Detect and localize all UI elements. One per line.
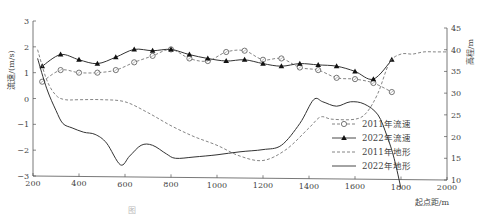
- y-left-tick-label: 0: [24, 95, 29, 104]
- legend-label: 2022年流速: [362, 133, 411, 143]
- legend-item-velocity-2011: 2011年流速: [332, 119, 411, 129]
- y-right-tick-label: 30: [451, 89, 461, 98]
- axes: 200400600800100012001400160018002000−3−2…: [6, 17, 475, 207]
- y-right-tick-label: 35: [451, 67, 461, 76]
- x-tick-label: 1000: [207, 181, 227, 190]
- y-left-tick-label: −1: [17, 120, 29, 129]
- x-tick-label: 400: [71, 179, 86, 188]
- x-tick-label: 1600: [345, 182, 365, 191]
- x-axis-line: [33, 176, 447, 180]
- y-right-tick-label: 15: [451, 154, 461, 163]
- legend-triangle-marker: [341, 135, 347, 140]
- x-tick-label: 800: [163, 180, 178, 189]
- y-right-tick-label: 40: [451, 46, 461, 55]
- y-left-tick-label: 3: [24, 17, 29, 26]
- chart: 200400600800100012001400160018002000−3−2…: [0, 0, 486, 218]
- y-left-tick-label: 1: [24, 69, 29, 78]
- y-left-tick-label: −2: [17, 146, 29, 155]
- legend-item-velocity-2022: 2022年流速: [332, 133, 411, 143]
- legend-item-terrain-2011: 2011年地形: [332, 147, 411, 157]
- legend-label: 2011年流速: [362, 119, 411, 129]
- y-left-tick-label: 2: [24, 43, 29, 52]
- x-tick-label: 1400: [299, 182, 319, 191]
- legend-label: 2011年地形: [362, 147, 411, 157]
- legend-item-terrain-2022: 2022年地形: [332, 161, 411, 171]
- y-right-tick-label: 25: [451, 111, 461, 120]
- x-tick-label: 1200: [253, 181, 273, 190]
- legend: 2011年流速2022年流速2011年地形2022年地形: [332, 119, 411, 171]
- y-right-tick-label: 10: [451, 176, 461, 185]
- y-left-tick-label: −3: [17, 172, 29, 181]
- y-left-axis-title: 流速/(m/s): [6, 50, 16, 89]
- y-right-axis-title: 高程/m: [465, 38, 475, 65]
- x-tick-label: 600: [117, 180, 132, 189]
- velocity-2011-line: [42, 49, 392, 92]
- terrain-2011-line: [38, 50, 447, 161]
- x-axis-title: 起点距/m: [415, 198, 450, 207]
- y-right-tick-label: 45: [451, 24, 461, 33]
- velocity-2022-line: [42, 49, 392, 79]
- y-right-tick-label: 20: [451, 133, 461, 142]
- legend-label: 2022年地形: [362, 161, 411, 171]
- legend-circle-marker: [341, 121, 346, 126]
- figure-caption: 图: [128, 204, 136, 215]
